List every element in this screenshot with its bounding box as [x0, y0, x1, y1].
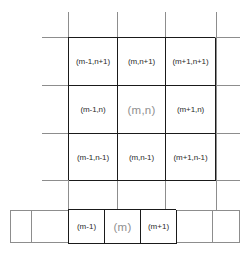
strip-cell-center: (m)	[105, 210, 141, 244]
grid-cell: (m,n+1)	[118, 38, 166, 86]
grid-cell: (m,n-1)	[118, 134, 166, 181]
grid-stencil-diagram: (m-1,n+1) (m,n+1) (m+1,n+1) (m-1,n) (m,n…	[0, 0, 250, 255]
strip-divider-left	[31, 210, 32, 243]
strip-cell: (m+1)	[141, 210, 177, 244]
grid-cell: (m+1,n+1)	[166, 38, 216, 86]
grid-cell: (m+1,n-1)	[166, 134, 216, 181]
grid-cell: (m+1,n)	[166, 86, 216, 134]
strip-cells: (m-1) (m) (m+1)	[68, 209, 176, 244]
bottom-strip: (m-1) (m) (m+1)	[10, 210, 240, 243]
main-grid: (m-1,n+1) (m,n+1) (m+1,n+1) (m-1,n) (m,n…	[68, 37, 215, 180]
grid-cell: (m-1,n+1)	[69, 38, 118, 86]
grid-cell: (m-1,n-1)	[69, 134, 118, 181]
strip-divider-right	[212, 210, 213, 243]
grid-cell: (m-1,n)	[69, 86, 118, 134]
strip-cell: (m-1)	[69, 210, 105, 244]
grid-cell-center: (m,n)	[118, 86, 166, 134]
